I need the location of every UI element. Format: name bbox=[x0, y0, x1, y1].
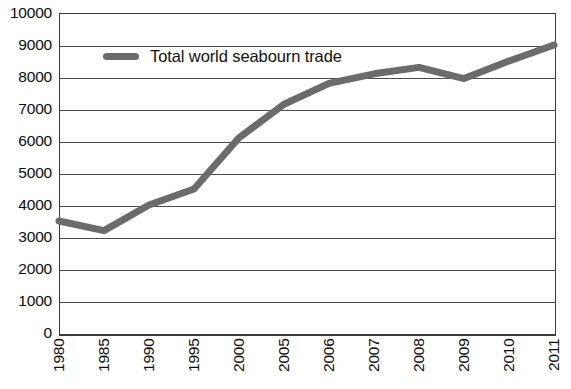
x-axis-tick-label: 1980 bbox=[50, 338, 68, 389]
x-axis-tick-label: 2005 bbox=[275, 338, 293, 389]
x-axis-tick-label: 2007 bbox=[365, 338, 383, 389]
x-axis-tick-label: 1995 bbox=[185, 338, 203, 389]
x-axis-tick-label: 2008 bbox=[410, 338, 428, 389]
x-axis-tick-label: 2011 bbox=[545, 338, 563, 389]
x-axis-tick-label: 2010 bbox=[500, 338, 518, 389]
chart-legend: Total world seabourn trade bbox=[103, 48, 342, 65]
x-axis-tick-label: 2009 bbox=[455, 338, 473, 389]
line-chart: 1000090008000700060005000400030002000100… bbox=[0, 0, 571, 389]
legend-swatch-icon bbox=[103, 53, 139, 60]
x-axis-tick-label: 1985 bbox=[95, 338, 113, 389]
x-axis-tick-label: 1990 bbox=[140, 338, 158, 389]
legend-label: Total world seabourn trade bbox=[150, 48, 342, 65]
x-axis-tick-label: 2000 bbox=[230, 338, 248, 389]
series-line bbox=[59, 45, 554, 231]
x-axis-tick-label: 2006 bbox=[320, 338, 338, 389]
